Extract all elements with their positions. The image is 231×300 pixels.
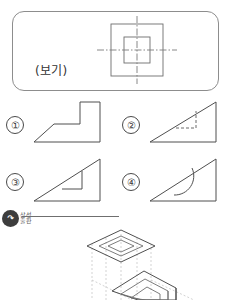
lower-plane-outer bbox=[112, 271, 176, 300]
isometric-projection-diagram bbox=[76, 228, 221, 300]
option-2-number: ② bbox=[122, 116, 140, 134]
option-4[interactable]: ④ bbox=[116, 153, 231, 209]
reference-figure bbox=[93, 18, 179, 88]
option-3[interactable]: ③ bbox=[0, 153, 115, 209]
option-1-number: ① bbox=[6, 116, 24, 134]
option-3-number: ③ bbox=[6, 173, 24, 191]
option-1-figure bbox=[28, 98, 108, 150]
answer-options: ① ② ③ bbox=[0, 96, 231, 208]
reference-box: (보기) bbox=[12, 11, 219, 91]
guide-diagonal-left bbox=[92, 280, 132, 300]
option-4-arc bbox=[174, 168, 194, 195]
watermark-glyph-icon: ↷ bbox=[2, 210, 19, 227]
option-2[interactable]: ② bbox=[116, 96, 231, 152]
option-4-number: ④ bbox=[122, 173, 140, 191]
watermark-text: 삼성 출판 bbox=[20, 212, 32, 224]
option-2-hidden-line bbox=[176, 111, 196, 128]
option-2-figure bbox=[144, 98, 224, 150]
option-3-figure bbox=[28, 155, 108, 207]
option-3-outline bbox=[34, 159, 100, 201]
reference-label: (보기) bbox=[35, 61, 68, 78]
option-1[interactable]: ① bbox=[0, 96, 115, 152]
option-2-outline bbox=[150, 102, 216, 142]
horizontal-divider bbox=[22, 216, 119, 217]
exam-question-page: (보기) ① bbox=[0, 0, 231, 300]
option-3-step-line bbox=[62, 171, 82, 189]
watermark-text-line2: 출판 bbox=[20, 218, 32, 224]
watermark: ↷ 삼성 출판 bbox=[2, 209, 36, 228]
option-1-outline bbox=[34, 102, 100, 142]
option-4-figure bbox=[144, 155, 224, 207]
guide-diagonal-right bbox=[151, 280, 194, 300]
option-4-outline bbox=[150, 159, 216, 201]
